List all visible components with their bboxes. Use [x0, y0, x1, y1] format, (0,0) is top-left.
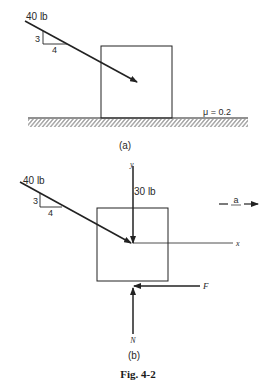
free-body-diagram: 40 lb 3 4 μ = 0.2 (a) x y 30 lb 40 lb 3 … — [0, 0, 274, 391]
slope-run-label: 4 — [52, 45, 57, 55]
applied-force-label-fbd: 40 lb — [23, 175, 45, 186]
friction-coefficient-label: μ = 0.2 — [203, 107, 231, 117]
x-axis-label: x — [235, 239, 240, 248]
ground — [28, 118, 248, 127]
applied-force-arrow — [25, 21, 137, 82]
figure-caption: Fig. 4-2 — [120, 368, 156, 380]
acceleration-indicator: a — [219, 195, 258, 205]
weight-label: 30 lb — [134, 186, 156, 197]
panel-b-label: (b) — [128, 350, 140, 361]
panel-a-label: (a) — [119, 140, 131, 151]
friction-force-label: F — [202, 281, 209, 291]
applied-force-label: 40 lb — [26, 11, 48, 22]
slope-rise-label-fbd: 3 — [33, 196, 38, 206]
normal-force-label: N — [129, 336, 136, 345]
acceleration-label: a — [233, 195, 238, 205]
panel-a: 40 lb 3 4 μ = 0.2 (a) — [25, 11, 248, 151]
panel-b: x y 30 lb 40 lb 3 4 a F N (b) — [20, 160, 258, 361]
applied-force-arrow-fbd — [20, 182, 131, 243]
slope-rise-label: 3 — [35, 34, 40, 44]
y-axis-label: y — [129, 160, 134, 169]
slope-run-label-fbd: 4 — [48, 208, 53, 218]
